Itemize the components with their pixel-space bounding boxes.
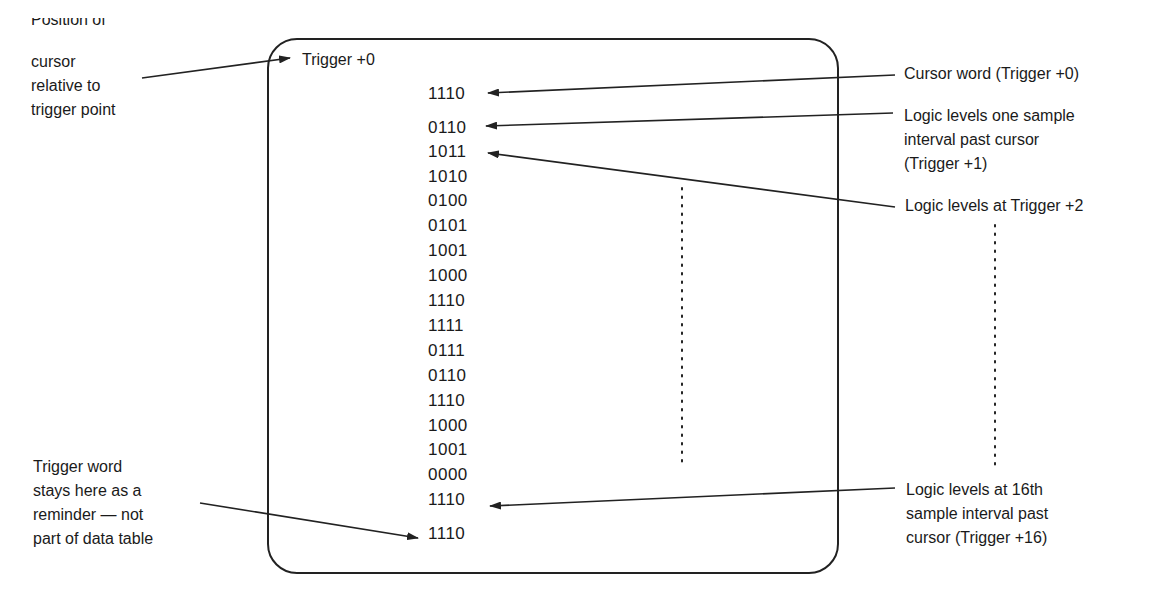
data-row-13: 1000 [428,416,468,436]
arrow-trigger-word [200,503,418,538]
data-row-3: 1010 [428,167,468,187]
arrow-one-sample [486,113,893,126]
trigger-word-reminder: 1110 [428,524,465,544]
data-row-12: 1110 [428,391,465,411]
data-row-11: 0110 [428,366,467,386]
annotation-position-of-text: Position of [31,18,106,30]
annotation-cursor-word: Cursor word (Trigger +0) [904,62,1079,86]
arrow-trigger-plus-16 [490,488,895,506]
cursor-position-label: Trigger +0 [302,48,375,72]
data-row-2: 1011 [428,142,467,162]
arrow-cursor-word [488,75,895,93]
annotation-position-of-line1: Position of [31,18,106,30]
data-row-1: 0110 [428,118,467,138]
data-row-8: 1110 [428,291,465,311]
annotation-trigger-plus-16: Logic levels at 16th sample interval pas… [906,478,1048,550]
annotation-position-of-cursor: cursor relative to trigger point [31,50,116,122]
annotation-trigger-word: Trigger word stays here as a reminder — … [33,455,153,551]
data-row-7: 1000 [428,266,468,286]
data-row-16: 1110 [428,490,465,510]
annotation-one-sample: Logic levels one sample interval past cu… [904,104,1075,176]
data-row-15: 0000 [428,465,468,485]
diagram-canvas: Trigger +0 1110 0110 1011 1010 0100 0101… [0,0,1161,603]
data-row-9: 1111 [428,316,464,336]
data-row-4: 0100 [428,191,468,211]
data-row-14: 1001 [428,440,468,460]
data-row-10: 0111 [428,341,465,361]
data-row-5: 0101 [428,216,468,236]
annotation-trigger-plus-2: Logic levels at Trigger +2 [905,194,1083,218]
arrow-trigger-plus-2 [488,153,895,207]
data-row-6: 1001 [428,241,468,261]
arrow-position-of-cursor [142,58,290,78]
data-row-0: 1110 [428,84,465,104]
